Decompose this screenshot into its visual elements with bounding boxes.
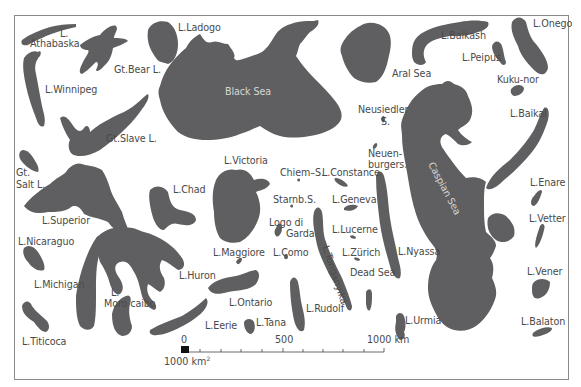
lake-tana <box>244 319 255 334</box>
scale-label-500: 500 <box>275 334 293 345</box>
label-athabaska-2: Athabaska <box>30 38 79 49</box>
scale-area-square <box>181 346 189 353</box>
label-tana: L.Tana <box>256 317 286 328</box>
lake-vener <box>532 279 550 299</box>
label-black-sea: Black Sea <box>225 86 271 97</box>
label-balkash: L.Balkash <box>441 30 486 41</box>
label-moroc-2: Moro caibo <box>104 298 156 309</box>
label-victoria: L.Victoria <box>224 155 268 166</box>
label-eerie: L.Eerie <box>205 320 237 331</box>
label-baikal: L.Baikal <box>510 108 547 119</box>
label-ontario: L.Ontario <box>229 297 272 308</box>
lake-great-slave <box>60 94 149 156</box>
label-garda: Garda <box>286 228 315 239</box>
scale-area-text: 1000 km <box>164 356 206 367</box>
label-starnb: Starnb.S. <box>273 194 316 205</box>
lake-zurich <box>354 258 360 261</box>
lake-nicaraguo <box>23 246 44 271</box>
label-gt-salt-2: Salt L. <box>16 179 45 190</box>
lake-titicaca <box>22 302 49 333</box>
label-enare: L.Enare <box>530 177 565 188</box>
lake-ladogo <box>148 21 178 64</box>
lake-victoria <box>213 169 270 242</box>
label-nicaraguo: L.Nicaraguo <box>18 236 74 247</box>
label-aral: Aral Sea <box>392 68 431 79</box>
label-onego: L.Onego <box>533 18 572 29</box>
label-neuen-1: Neuen- <box>368 148 402 159</box>
label-gt-slave: Gt.Slave L. <box>106 133 157 144</box>
lake-kuku-nor <box>511 85 524 96</box>
label-balaton: L.Balaton <box>521 316 565 327</box>
label-vener: L.Vener <box>527 266 562 277</box>
lake-maggiore <box>236 258 242 264</box>
label-superior: L.Superior <box>42 215 90 226</box>
scale-bar <box>181 346 384 353</box>
label-como: L.Como <box>273 247 309 258</box>
label-lucerne: L.Lucerne <box>332 224 378 235</box>
lake-geneva <box>344 205 358 211</box>
label-peipus: L.Peipus <box>462 52 501 63</box>
label-moroc-1: L. <box>111 287 119 298</box>
black-sea <box>159 20 342 140</box>
label-zurich: L.Zürich <box>342 247 380 258</box>
label-neusiedler-1: Neusiedler <box>358 104 408 115</box>
aral-sea <box>341 23 391 83</box>
label-chiem: Chiem–S. <box>280 167 324 178</box>
lake-enare <box>531 190 542 206</box>
label-dead-sea: Dead Sea <box>350 267 395 278</box>
lake-nyassa <box>376 172 401 279</box>
lake-superior <box>24 163 131 238</box>
label-neusiedler-2: S. <box>381 116 390 127</box>
label-vetter: L.Vetter <box>529 213 566 224</box>
lake-vetter <box>535 224 544 248</box>
label-geneva: L.Geneva <box>332 194 376 205</box>
label-gt-bear: Gt.Bear L. <box>114 64 161 75</box>
label-chad: L.Chad <box>173 184 206 195</box>
lake-winnipeg <box>23 51 45 126</box>
label-titicoca: L.Titicoca <box>22 336 66 347</box>
label-urmia: L.Urmia <box>405 315 441 326</box>
label-ladogo: L.Ladogo <box>178 22 221 33</box>
lake-lucerne <box>350 235 356 239</box>
label-michigan: L.Michigan <box>34 279 84 290</box>
label-neuen-2: burgers. <box>368 159 407 170</box>
scale-area-label: 1000 km2 <box>164 356 210 367</box>
label-gt-salt-1: Gt. <box>16 167 30 178</box>
lake-eerie <box>150 298 208 335</box>
lake-balaton <box>532 327 552 337</box>
scale-area-sup: 2 <box>206 355 210 362</box>
label-nyassa: L.Nyassa <box>398 246 440 257</box>
lake-chiemsee <box>297 179 300 182</box>
label-huron: L.Huron <box>179 270 216 281</box>
lake-rudolf <box>290 278 305 332</box>
scale-label-1000km: 1000 km <box>367 334 409 345</box>
lake-constance <box>335 178 349 187</box>
label-kuku-nor: Kuku-nor <box>497 74 539 85</box>
label-winnipeg: L.Winnipeg <box>45 84 97 95</box>
label-logo: Logo di <box>269 217 303 228</box>
label-maggiore: L.Maggiore <box>213 247 265 258</box>
scale-label-zero: 0 <box>181 334 187 345</box>
dead-sea <box>366 289 372 310</box>
